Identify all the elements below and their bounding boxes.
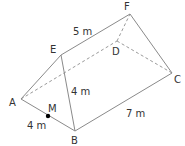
- label-D: D: [112, 46, 120, 57]
- edge-AE: [21, 55, 61, 99]
- edge-BC: [75, 73, 172, 131]
- point-M-dot: [46, 114, 50, 118]
- label-A: A: [9, 97, 16, 108]
- measure-EB: 4 m: [71, 86, 90, 97]
- measure-AB: 4 m: [27, 120, 46, 131]
- prism-diagram: A B C D E F M 5 m 4 m 7 m 4 m: [0, 0, 185, 146]
- prism-svg: A B C D E F M 5 m 4 m 7 m 4 m: [0, 0, 185, 146]
- edge-DC: [117, 41, 172, 73]
- measure-EF: 5 m: [73, 26, 92, 37]
- measure-BC: 7 m: [126, 108, 145, 119]
- label-F: F: [124, 1, 130, 12]
- label-B: B: [71, 135, 78, 146]
- label-E: E: [50, 44, 56, 55]
- label-C: C: [174, 74, 181, 85]
- edge-FC: [130, 14, 172, 73]
- label-M: M: [48, 103, 57, 114]
